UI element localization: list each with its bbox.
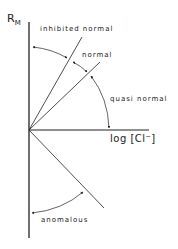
- arc-quasi-normal: [91, 76, 109, 128]
- quasi-normal-label: quasi normal: [110, 95, 168, 103]
- normal-label: normal: [82, 51, 113, 59]
- x-axis-label: log [Cl⁻]: [110, 133, 156, 144]
- y-axis-label: RM: [7, 12, 21, 27]
- normal-line: [29, 62, 100, 130]
- anomalous-label: anomalous: [41, 216, 88, 224]
- diagram-canvas: [0, 0, 178, 249]
- arc-normal: [73, 62, 87, 72]
- y-axis-label-subscript: M: [15, 19, 21, 27]
- y-axis-label-main: R: [7, 12, 15, 25]
- arc-anomalous: [32, 192, 83, 213]
- arc-inhibited-normal: [33, 47, 67, 58]
- inhibited-normal-label: inhibited normal: [40, 25, 113, 33]
- anomalous-line: [29, 130, 104, 208]
- inhibited-normal-line: [29, 37, 82, 130]
